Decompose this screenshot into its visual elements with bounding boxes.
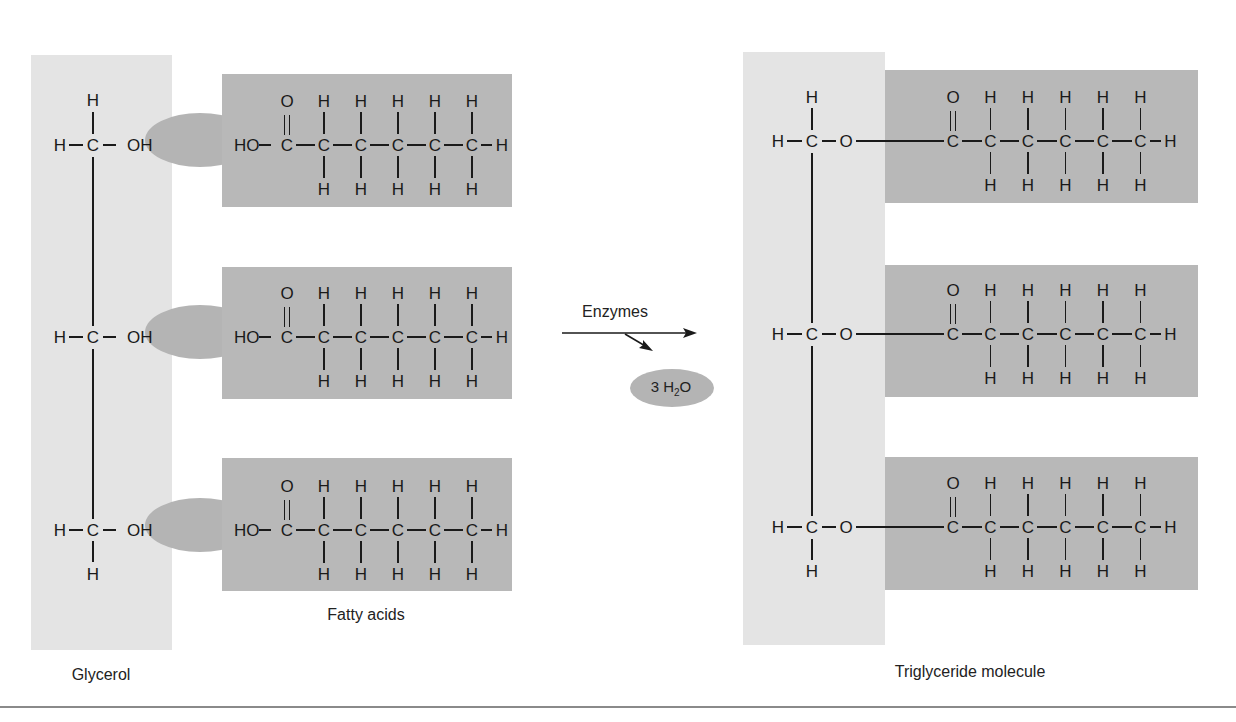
atom-h: H: [1095, 563, 1111, 580]
atom-h: H: [316, 566, 332, 583]
atom-h: H: [983, 563, 999, 580]
single-bond: [444, 336, 463, 338]
single-bond: [481, 336, 492, 338]
single-bond: [1140, 301, 1142, 323]
single-bond: [69, 144, 83, 146]
single-bond: [296, 336, 315, 338]
single-bond: [1102, 345, 1104, 367]
atom-c: C: [390, 522, 406, 539]
single-bond: [990, 494, 992, 516]
single-bond: [397, 497, 399, 519]
atom-h: H: [1095, 370, 1111, 387]
atom-c: C: [464, 329, 480, 346]
atom-c: C: [390, 329, 406, 346]
atom-h: H: [464, 181, 480, 198]
atom-h: H: [390, 373, 406, 390]
atom-h: H: [427, 566, 443, 583]
single-bond: [471, 348, 473, 370]
atom-o-carbonyl: O: [945, 475, 961, 492]
single-bond: [92, 112, 94, 134]
atom-o-carbonyl: O: [279, 93, 295, 110]
reaction-arrow-icon: [555, 320, 705, 360]
single-bond: [1065, 494, 1067, 516]
single-bond: [1065, 152, 1067, 174]
atom-h: H: [494, 329, 510, 346]
atom-c: C: [1095, 133, 1111, 150]
atom-o-carbonyl: O: [945, 89, 961, 106]
single-bond: [1027, 301, 1029, 323]
double-bond: [284, 307, 290, 327]
single-bond: [1150, 333, 1161, 335]
atom-h: H: [1133, 475, 1149, 492]
atom-h: H: [770, 519, 786, 536]
double-bond: [950, 111, 956, 131]
atom-c: C: [1095, 519, 1111, 536]
single-bond: [434, 156, 436, 178]
atom-h: H: [353, 478, 369, 495]
single-bond: [1075, 333, 1095, 335]
atom-h: H: [1020, 89, 1036, 106]
single-bond: [1037, 333, 1057, 335]
atom-c: C: [464, 137, 480, 154]
single-bond: [1075, 140, 1095, 142]
atom-h: H: [85, 92, 101, 109]
atom-o-ester: O: [838, 519, 854, 536]
single-bond: [471, 304, 473, 326]
atom-c: C: [1058, 133, 1074, 150]
fatty-acids-label: Fatty acids: [327, 606, 404, 624]
single-bond: [990, 152, 992, 174]
single-bond: [481, 529, 492, 531]
atom-c: C: [353, 137, 369, 154]
single-bond: [1000, 140, 1020, 142]
atom-h: H: [1058, 475, 1074, 492]
single-bond: [370, 529, 389, 531]
atom-oh: OH: [127, 329, 143, 346]
single-bond: [333, 336, 352, 338]
atom-h: H: [427, 373, 443, 390]
atom-h: H: [1020, 475, 1036, 492]
single-bond: [407, 144, 426, 146]
atom-h: H: [464, 566, 480, 583]
atom-c: C: [427, 329, 443, 346]
single-bond: [1112, 140, 1132, 142]
atom-ho: HO: [234, 329, 250, 346]
atom-h: H: [770, 133, 786, 150]
single-bond: [856, 140, 944, 142]
atom-h: H: [390, 566, 406, 583]
atom-c: C: [1020, 519, 1036, 536]
single-bond: [360, 497, 362, 519]
single-bond: [323, 348, 325, 370]
single-bond: [1027, 345, 1029, 367]
atom-h: H: [1095, 89, 1111, 106]
atom-h: H: [804, 89, 820, 106]
double-bond: [284, 115, 290, 135]
single-bond: [1065, 538, 1067, 560]
water-o-text: O: [680, 378, 692, 395]
single-bond: [811, 108, 813, 130]
single-bond: [1102, 494, 1104, 516]
atom-h: H: [353, 181, 369, 198]
atom-o-carbonyl: O: [945, 282, 961, 299]
atom-h: H: [1095, 475, 1111, 492]
single-bond: [103, 529, 116, 531]
single-bond: [296, 529, 315, 531]
single-bond: [434, 112, 436, 134]
atom-h: H: [52, 522, 68, 539]
atom-h: H: [353, 93, 369, 110]
atom-c: C: [1133, 326, 1149, 343]
atom-h: H: [983, 475, 999, 492]
atom-oh: OH: [127, 137, 143, 154]
atom-c: C: [945, 133, 961, 150]
atom-h: H: [1163, 326, 1179, 343]
atom-h: H: [353, 285, 369, 302]
atom-c: C: [85, 137, 101, 154]
single-bond: [434, 497, 436, 519]
single-bond: [259, 336, 271, 338]
single-bond: [370, 144, 389, 146]
atom-c: C: [1133, 519, 1149, 536]
atom-h: H: [1058, 370, 1074, 387]
single-bond: [471, 497, 473, 519]
single-bond: [1102, 538, 1104, 560]
atom-c: C: [316, 137, 332, 154]
atom-h: H: [1095, 177, 1111, 194]
